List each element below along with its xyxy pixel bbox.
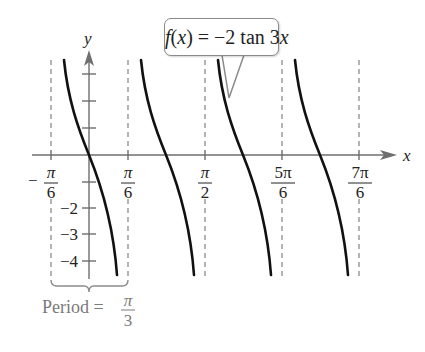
- x-tick-num-0: π: [47, 163, 56, 182]
- period-brace: [51, 280, 128, 292]
- callout-pointer: [222, 55, 244, 98]
- period-num: π: [124, 291, 133, 310]
- y-axis-label: y: [82, 29, 92, 48]
- x-axis-label: x: [402, 146, 411, 165]
- y-tick-labels: −2 −3 −4: [60, 199, 79, 271]
- function-callout: f(x) = −2 tan 3x: [164, 18, 279, 56]
- branch-4: [295, 60, 348, 275]
- period-den: 3: [124, 311, 133, 330]
- x-tick-den-0: 6: [47, 183, 56, 202]
- x-tick-den-2: 2: [201, 183, 210, 202]
- x-tick-num-3: 5π: [274, 163, 292, 182]
- callout-x: x: [177, 26, 186, 48]
- x-tick-num-1: π: [124, 163, 133, 182]
- y-tick-neg2: −2: [60, 199, 78, 218]
- x-tick-sign-0: −: [28, 171, 38, 190]
- branch-2: [141, 60, 194, 275]
- x-tick-den-1: 6: [124, 183, 133, 202]
- x-tick-labels: − π 6 π 6 π 2 5π 6 7π 6: [28, 163, 372, 202]
- x-tick-den-3: 6: [279, 183, 288, 202]
- y-tick-neg4: −4: [60, 252, 79, 271]
- callout-rest: ) = −2 tan 3: [186, 26, 280, 48]
- x-axis: [32, 150, 385, 160]
- callout-x2: x: [280, 26, 289, 48]
- x-tick-den-4: 6: [356, 183, 365, 202]
- y-tick-neg3: −3: [60, 225, 78, 244]
- x-tick-num-2: π: [201, 163, 210, 182]
- x-tick-num-4: 7π: [351, 163, 369, 182]
- branch-3: [218, 60, 271, 275]
- period-label: Period =: [42, 297, 104, 317]
